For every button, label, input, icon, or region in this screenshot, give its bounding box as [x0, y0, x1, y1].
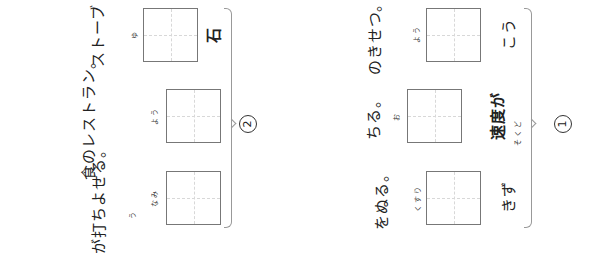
answer-box[interactable]: [143, 8, 198, 62]
item-after: ちる。: [365, 88, 383, 144]
section-number-2: 2: [239, 115, 257, 133]
furigana: くすり: [414, 185, 422, 212]
item-after: のきせつ。: [366, 0, 384, 80]
furigana: なみ: [151, 189, 159, 207]
answer-box[interactable]: [166, 171, 221, 225]
answer-box[interactable]: [166, 89, 221, 143]
furigana: ゆ: [131, 30, 139, 39]
section-number-1: 1: [554, 115, 572, 133]
furigana-before: そくど: [514, 119, 522, 146]
furigana-after: う: [129, 210, 137, 219]
answer-box[interactable]: [426, 8, 481, 62]
answer-box[interactable]: [426, 171, 481, 225]
furigana: よう: [151, 107, 159, 125]
item-before: 速度が: [489, 88, 507, 144]
item-before: 石: [205, 25, 223, 45]
furigana: よう: [413, 25, 421, 43]
item-after: が打ちよせる。: [90, 135, 108, 257]
item-before: こう: [500, 20, 518, 50]
furigana: お: [393, 112, 401, 121]
item-before: きず: [500, 183, 518, 213]
answer-box[interactable]: [407, 89, 462, 143]
item-after: をぬる。: [373, 160, 391, 236]
